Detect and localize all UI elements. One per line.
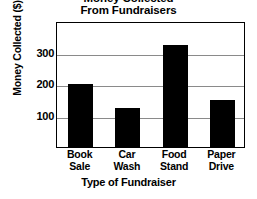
x-tick-label-food-stand: FoodStand — [151, 149, 198, 172]
x-tick-label-paper-drive: PaperDrive — [198, 149, 245, 172]
x-tick-label-car-wash: CarWash — [103, 149, 150, 172]
bar-paper-drive — [210, 100, 235, 147]
x-tick-label-book-sale: BookSale — [56, 149, 103, 172]
plot-area — [56, 22, 245, 148]
bar-food-stand — [163, 45, 188, 147]
bars-group — [57, 23, 244, 147]
bar-book-sale — [68, 84, 93, 147]
y-axis-tick-labels: 100200300 — [22, 22, 54, 148]
x-axis-title: Type of Fundraiser — [0, 176, 257, 188]
y-tick-label-200: 200 — [22, 79, 54, 90]
bar-car-wash — [115, 108, 140, 147]
chart-title-line-2: From Fundraisers — [0, 4, 257, 16]
chart-title: Money Collected From Fundraisers — [0, 0, 257, 16]
y-tick-label-300: 300 — [22, 48, 54, 59]
x-axis-tick-labels: BookSaleCarWashFoodStandPaperDrive — [56, 149, 245, 175]
y-tick-label-100: 100 — [22, 111, 54, 122]
bar-chart-figure: Money Collected From Fundraisers Money C… — [0, 0, 257, 199]
